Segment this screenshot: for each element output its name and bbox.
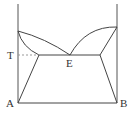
- right-liquidus-curve: [70, 27, 117, 55]
- left-solvus-line: [18, 55, 39, 103]
- right-solidus-line: [100, 27, 117, 55]
- label-e: E: [66, 58, 73, 69]
- right-solvus-line: [100, 55, 117, 103]
- label-b: B: [120, 98, 127, 109]
- label-t: T: [7, 50, 14, 61]
- left-liquidus-curve: [18, 31, 70, 55]
- label-a: A: [6, 98, 14, 109]
